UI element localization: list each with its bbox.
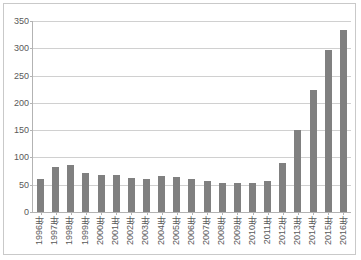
x-axis-label-slot: 2006年 xyxy=(184,216,199,260)
x-axis-label-slot: 2016年 xyxy=(336,216,351,260)
y-axis-tick-label: 50 xyxy=(19,180,29,189)
bar-slot xyxy=(184,21,199,212)
x-axis-label-slot: 2015年 xyxy=(321,216,336,260)
bars-group xyxy=(33,21,351,212)
x-axis-tick-mark xyxy=(343,212,344,215)
x-axis-tick-mark xyxy=(192,212,193,215)
bar-slot xyxy=(260,21,275,212)
y-axis-tick-label: 150 xyxy=(14,126,29,135)
x-axis-tick-label: 2011年 xyxy=(263,216,272,244)
y-axis-tick-label: 350 xyxy=(14,17,29,26)
x-axis-tick-label: 1996年 xyxy=(35,216,44,245)
bar xyxy=(158,176,165,212)
bar-slot xyxy=(78,21,93,212)
bar-slot xyxy=(245,21,260,212)
bar-slot xyxy=(109,21,124,212)
bar-slot xyxy=(290,21,305,212)
bar xyxy=(279,163,286,212)
bar xyxy=(188,179,195,212)
bar xyxy=(143,179,150,212)
x-axis-tick-mark xyxy=(177,212,178,215)
x-axis-label-slot: 2014年 xyxy=(305,216,320,260)
x-axis-label-slot: 2009年 xyxy=(229,216,244,260)
x-axis-labels-group: 1996年1997年1998年1999年2000年2001年2002年2003年… xyxy=(32,216,351,260)
bar xyxy=(340,30,347,212)
x-axis-tick-label: 2007年 xyxy=(202,216,211,245)
bar xyxy=(98,175,105,212)
bar-slot xyxy=(33,21,48,212)
x-axis-tick-label: 2003年 xyxy=(141,216,150,245)
x-axis-tick-mark xyxy=(222,212,223,215)
x-axis-tick-label: 1997年 xyxy=(50,216,59,245)
x-axis-tick-mark xyxy=(162,212,163,215)
x-axis-tick-label: 2013年 xyxy=(293,216,302,245)
bar-slot xyxy=(124,21,139,212)
plot-area: 050100150200250300350 xyxy=(32,21,351,213)
x-axis-tick-label: 1999年 xyxy=(81,216,90,245)
x-axis-tick-mark xyxy=(207,212,208,215)
x-axis-label-slot: 2001年 xyxy=(108,216,123,260)
bar xyxy=(82,173,89,212)
x-axis-tick-mark xyxy=(71,212,72,215)
x-axis-tick-label: 2004年 xyxy=(157,216,166,245)
x-axis-tick-mark xyxy=(41,212,42,215)
bar xyxy=(37,179,44,212)
x-axis-label-slot: 2002年 xyxy=(123,216,138,260)
x-axis-label-slot: 1997年 xyxy=(47,216,62,260)
x-axis-tick-mark xyxy=(101,212,102,215)
bar-slot xyxy=(306,21,321,212)
y-axis-tick-label: 250 xyxy=(14,71,29,80)
x-axis-tick-mark xyxy=(283,212,284,215)
bar xyxy=(67,165,74,212)
bar xyxy=(204,181,211,212)
x-axis-tick-mark xyxy=(298,212,299,215)
x-axis-tick-label: 2008年 xyxy=(217,216,226,245)
x-axis-label-slot: 2013年 xyxy=(290,216,305,260)
chart-frame: 050100150200250300350 1996年1997年1998年199… xyxy=(3,3,356,255)
x-axis-label-slot: 2005年 xyxy=(169,216,184,260)
x-axis-label-slot: 1999年 xyxy=(78,216,93,260)
x-axis-tick-mark xyxy=(253,212,254,215)
bar xyxy=(294,130,301,212)
x-axis-tick-mark xyxy=(313,212,314,215)
bar xyxy=(234,183,241,212)
y-axis-tick-label: 200 xyxy=(14,98,29,107)
x-axis-label-slot: 2007年 xyxy=(199,216,214,260)
bar-slot xyxy=(139,21,154,212)
x-axis-label-slot: 2011年 xyxy=(260,216,275,260)
bar xyxy=(325,50,332,212)
x-axis-tick-label: 2002年 xyxy=(126,216,135,245)
bar xyxy=(249,183,256,212)
bar xyxy=(219,183,226,212)
bar-slot xyxy=(154,21,169,212)
bar xyxy=(264,181,271,212)
x-axis-tick-mark xyxy=(56,212,57,215)
x-axis-tick-label: 2009年 xyxy=(233,216,242,245)
x-axis-tick-label: 2016年 xyxy=(339,216,348,245)
bar-slot xyxy=(200,21,215,212)
x-axis-tick-mark xyxy=(116,212,117,215)
x-axis-label-slot: 1996年 xyxy=(32,216,47,260)
x-axis-label-slot: 2012年 xyxy=(275,216,290,260)
x-axis-label-slot: 2008年 xyxy=(214,216,229,260)
bar-slot xyxy=(63,21,78,212)
x-axis-tick-label: 2005年 xyxy=(172,216,181,245)
bar xyxy=(113,175,120,212)
bar-slot xyxy=(215,21,230,212)
x-axis-tick-label: 2015年 xyxy=(324,216,333,245)
y-axis-tick-label: 0 xyxy=(24,208,29,217)
x-axis-tick-mark xyxy=(86,212,87,215)
x-axis-tick-mark xyxy=(147,212,148,215)
x-axis-tick-mark xyxy=(237,212,238,215)
x-axis-tick-mark xyxy=(268,212,269,215)
bar xyxy=(173,177,180,212)
bar-slot xyxy=(94,21,109,212)
y-axis-tick-mark xyxy=(30,212,33,213)
x-axis-tick-label: 1998年 xyxy=(65,216,74,245)
x-axis-tick-label: 2006年 xyxy=(187,216,196,245)
x-axis-tick-label: 2010年 xyxy=(248,216,257,245)
x-axis-tick-label: 2014年 xyxy=(308,216,317,245)
bar-slot xyxy=(321,21,336,212)
x-axis-label-slot: 2004年 xyxy=(154,216,169,260)
x-axis-label-slot: 2010年 xyxy=(245,216,260,260)
